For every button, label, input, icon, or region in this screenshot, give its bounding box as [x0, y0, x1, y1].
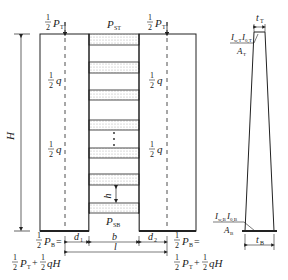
left-wall [40, 34, 89, 231]
svg-text:1: 1 [46, 13, 50, 22]
svg-text:q: q [157, 74, 163, 86]
svg-text:2: 2 [148, 23, 152, 32]
svg-text:B: B [260, 240, 264, 246]
bottom-right-reaction-label: 1 2 P B = 1 2 P T + 1 2 qH [174, 231, 224, 272]
svg-text:2: 2 [41, 263, 45, 272]
svg-text:2: 2 [150, 150, 154, 159]
right-wall [139, 34, 196, 231]
svg-text:P: P [181, 235, 189, 247]
svg-text:2: 2 [150, 81, 154, 90]
svg-text:B: B [51, 242, 55, 248]
svg-text:q: q [56, 143, 62, 155]
svg-text:2: 2 [37, 241, 41, 250]
svg-text:1: 1 [150, 71, 154, 80]
svg-text:h: h [102, 194, 113, 199]
width-dimensions: d 1 b d 2 l [65, 231, 167, 256]
svg-text:1: 1 [148, 13, 152, 22]
svg-text:ST: ST [114, 25, 121, 31]
svg-text:T: T [260, 18, 264, 24]
top-left-load-label: 1 2 P T [45, 13, 64, 32]
svg-text:1: 1 [150, 140, 154, 149]
svg-text:1: 1 [175, 253, 179, 262]
svg-text:2: 2 [154, 237, 157, 243]
svg-text:P: P [105, 215, 113, 227]
svg-text:P: P [181, 257, 189, 269]
svg-text:A: A [236, 46, 243, 56]
svg-text:P: P [106, 18, 114, 30]
svg-text:=: = [194, 236, 200, 247]
svg-text:SB: SB [113, 222, 120, 228]
svg-text:T: T [162, 24, 166, 30]
svg-text:1: 1 [175, 231, 179, 240]
svg-text:q: q [56, 74, 62, 86]
svg-text:1: 1 [49, 71, 53, 80]
right-q-label-1: 1 2 q [149, 71, 163, 90]
svg-text:+: + [32, 257, 38, 268]
right-q-label-2: 1 2 q [149, 140, 163, 159]
svg-text:1: 1 [49, 140, 53, 149]
svg-text:2: 2 [175, 241, 179, 250]
svg-text:1: 1 [13, 253, 17, 262]
coupled-wall-diagram: H h 1 2 P T P ST 1 2 P T 1 2 q 1 2 [0, 0, 288, 280]
svg-text:+: + [194, 257, 200, 268]
svg-text:1: 1 [80, 237, 83, 243]
svg-text:t: t [256, 234, 259, 245]
svg-text:H: H [4, 131, 16, 141]
svg-text:=: = [56, 236, 62, 247]
ellipsis [113, 132, 115, 146]
svg-text:2: 2 [175, 263, 179, 272]
svg-text:T: T [27, 264, 31, 270]
svg-text:2: 2 [46, 23, 50, 32]
svg-text:1: 1 [37, 231, 41, 240]
svg-text:T: T [243, 52, 246, 57]
bottom-left-reaction-label: 1 2 P B = 1 2 P T + 1 2 qH [12, 231, 62, 272]
svg-text:1: 1 [203, 253, 207, 262]
tapered-wall-section: t T I w,T I 0,T A T I w,B I 0,B A B t B [213, 12, 277, 250]
svg-text:B: B [230, 231, 234, 236]
svg-text:2: 2 [49, 81, 53, 90]
svg-text:P: P [43, 235, 51, 247]
svg-text:P: P [19, 257, 27, 269]
top-right-load-label: 1 2 P T [147, 13, 166, 32]
top-slab-load-label: P ST [106, 18, 121, 31]
svg-text:qH: qH [209, 257, 224, 269]
svg-text:T: T [60, 24, 64, 30]
height-dimension: H [4, 34, 30, 231]
svg-text:qH: qH [47, 257, 62, 269]
svg-text:2: 2 [203, 263, 207, 272]
svg-text:l: l [114, 241, 117, 252]
svg-text:A: A [223, 225, 230, 235]
svg-text:B: B [189, 242, 193, 248]
story-height-dimension: h [102, 187, 116, 201]
svg-text:T: T [189, 264, 193, 270]
svg-text:1: 1 [41, 253, 45, 262]
svg-text:t: t [256, 12, 259, 23]
svg-text:P: P [154, 17, 162, 29]
svg-text:2: 2 [13, 263, 17, 272]
left-q-label-2: 1 2 q [48, 140, 62, 159]
svg-text:q: q [157, 143, 163, 155]
svg-text:2: 2 [49, 150, 53, 159]
svg-text:P: P [52, 17, 60, 29]
left-q-label-1: 1 2 q [48, 71, 62, 90]
